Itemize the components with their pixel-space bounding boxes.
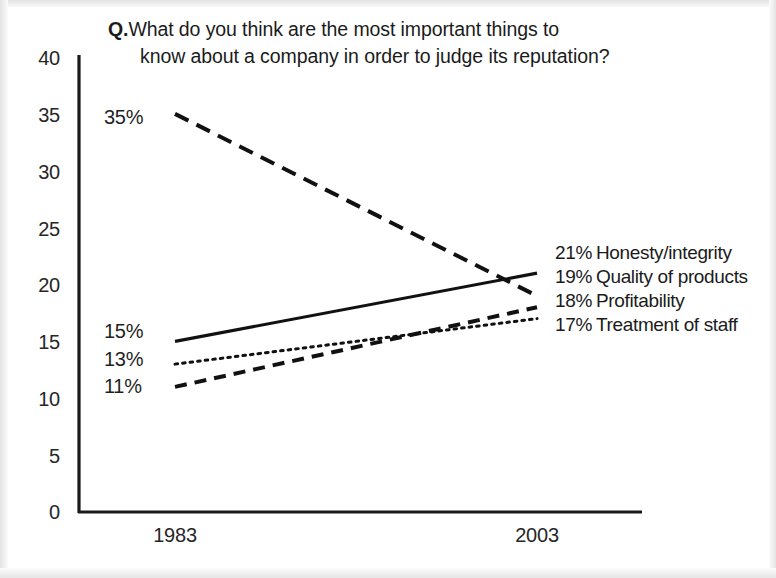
y-tick-label-5: 5 (14, 445, 60, 468)
y-tick-label-40: 40 (14, 47, 60, 70)
y-tick-label-35: 35 (14, 104, 60, 127)
y-tick-label-10: 10 (14, 388, 60, 411)
end-value-quality-of-products: 19% (555, 266, 592, 287)
end-value-profitability: 18% (555, 290, 592, 311)
y-tick-label-30: 30 (14, 161, 60, 184)
end-value-honesty-integrity: 21% (555, 242, 592, 263)
end-name-honesty-integrity: Honesty/integrity (596, 242, 732, 263)
start-label-profitability: 11% (104, 375, 142, 398)
end-label-honesty-integrity: 21%Honesty/integrity (555, 242, 732, 264)
y-tick-label-25: 25 (14, 218, 60, 241)
end-label-profitability: 18%Profitability (555, 290, 684, 312)
y-tick-label-15: 15 (14, 331, 60, 354)
y-tick-label-0: 0 (14, 501, 60, 524)
end-value-treatment-of-staff: 17% (555, 314, 592, 335)
x-tick-label-2003: 2003 (492, 524, 582, 547)
start-label-honesty-integrity: 15% (104, 320, 143, 343)
y-tick-label-20: 20 (14, 274, 60, 297)
end-label-quality-of-products: 19%Quality of products (555, 266, 748, 288)
start-label-quality-of-products: 35% (104, 106, 143, 129)
x-tick-label-1983: 1983 (130, 524, 220, 547)
series-line-quality-of-products (175, 114, 537, 296)
end-label-treatment-of-staff: 17%Treatment of staff (555, 314, 738, 336)
data-series-group (175, 114, 537, 387)
end-name-profitability: Profitability (596, 290, 684, 311)
chart-plot-area (0, 0, 776, 578)
end-name-treatment-of-staff: Treatment of staff (596, 314, 738, 335)
series-line-honesty-integrity (175, 273, 537, 341)
series-line-profitability (175, 307, 537, 387)
end-name-quality-of-products: Quality of products (596, 266, 748, 287)
chart-page: Q.What do you think are the most importa… (0, 0, 776, 578)
series-line-treatment-of-staff (175, 319, 537, 365)
start-label-treatment-of-staff: 13% (104, 348, 143, 371)
